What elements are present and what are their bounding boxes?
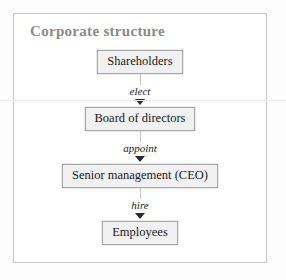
edge-senior-management-to-employees: hire: [14, 188, 266, 222]
edge-board-to-senior-management: appoint: [14, 131, 266, 165]
arrowhead-down-icon: [135, 213, 145, 219]
connector-line: [140, 74, 141, 85]
edge-label-hire: hire: [131, 199, 148, 213]
edge-label-elect: elect: [130, 85, 151, 99]
node-board-of-directors: Board of directors: [85, 107, 196, 131]
node-board-of-directors-label: Board of directors: [95, 111, 186, 125]
connector-line: [140, 188, 141, 199]
arrowhead-down-icon: [135, 99, 145, 105]
figure-frame: Corporate structure Shareholders elect B…: [13, 13, 267, 263]
edge-shareholders-to-board: elect: [14, 74, 266, 108]
connector-line: [140, 131, 141, 142]
node-employees-label: Employees: [112, 225, 168, 239]
figure-title: Corporate structure: [30, 23, 165, 40]
node-shareholders: Shareholders: [97, 50, 182, 74]
node-senior-management-label: Senior management (CEO): [72, 168, 208, 182]
node-shareholders-label: Shareholders: [107, 54, 172, 68]
edge-label-appoint: appoint: [123, 142, 157, 156]
arrowhead-down-icon: [135, 156, 145, 162]
scanned-page: Corporate structure Shareholders elect B…: [0, 0, 286, 280]
node-senior-management: Senior management (CEO): [62, 164, 218, 188]
node-employees: Employees: [102, 221, 178, 245]
org-chart-flow: Shareholders elect Board of directors ap…: [14, 50, 266, 245]
